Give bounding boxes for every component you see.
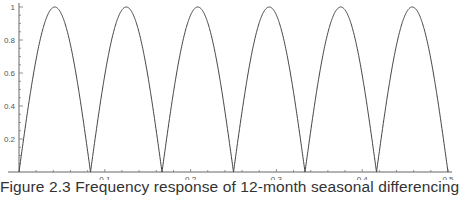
y-tick-label: 0.8 [4, 36, 16, 45]
y-tick-label: 1 [11, 3, 16, 12]
axes: 0.10.20.30.40.50.20.40.60.81 [4, 3, 454, 180]
y-tick-label: 0.2 [4, 135, 16, 144]
y-tick-label: 0.6 [4, 69, 16, 78]
figure-caption: Figure 2.3 Frequency response of 12-mont… [0, 178, 460, 196]
y-tick-label: 0.4 [4, 102, 16, 111]
frequency-response-chart: 0.10.20.30.40.50.20.40.60.81 [0, 0, 460, 180]
gain-curve [19, 7, 448, 172]
